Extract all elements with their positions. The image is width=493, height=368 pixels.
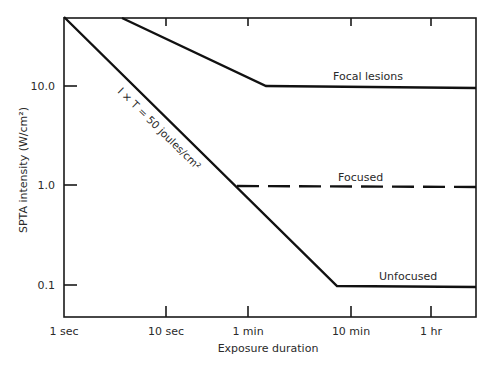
series-focused [237,186,476,187]
label-focused: Focused [338,171,383,184]
y-tick-label: 1.0 [38,179,56,192]
chart: 1 sec 10 sec 1 min 10 min 1 hr 10.0 1.0 … [0,0,493,368]
y-tick-label: 10.0 [31,80,56,93]
series-focal-lesions [122,18,476,88]
x-tick-label: 1 min [232,325,263,338]
y-tick-label: 0.1 [38,279,56,292]
x-tick-label: 10 min [332,325,370,338]
x-tick-label: 1 hr [420,325,442,338]
series-unfocused [64,17,476,287]
label-ixt-annotation: I × T = 50 joules/cm² [116,85,204,172]
label-focal-lesions: Focal lesions [333,70,403,83]
label-unfocused: Unfocused [379,270,437,283]
y-axis-title: SPTA intensity (W/cm²) [17,107,30,233]
x-tick-label: 10 sec [148,325,184,338]
x-tick-label: 1 sec [49,325,78,338]
y-ticks [64,86,77,285]
x-axis-title: Exposure duration [218,342,319,355]
